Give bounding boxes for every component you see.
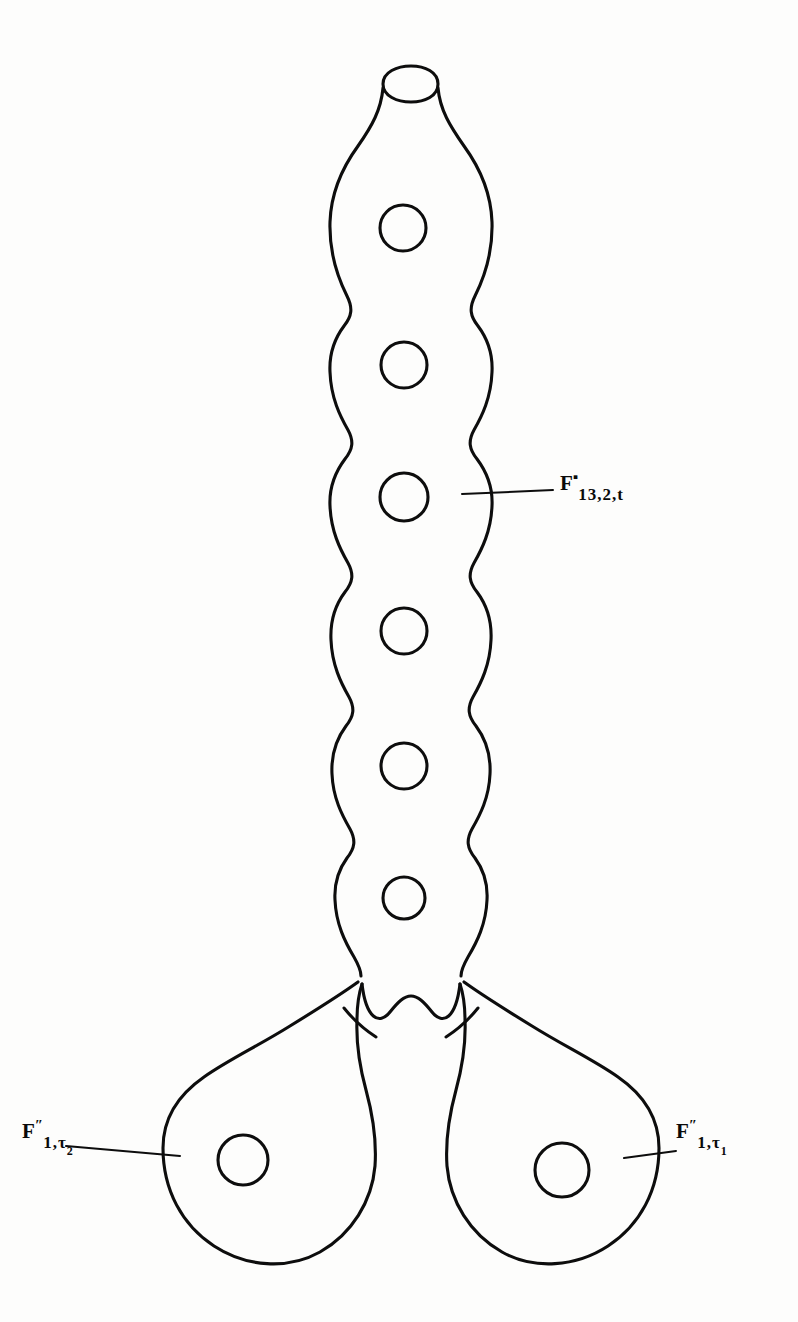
figure-canvas: F▪13,2,t F″1,τ2 F″1,τ1: [0, 0, 798, 1322]
crotch-arc: [362, 984, 460, 1019]
right-lobe-label-subscript-index: 1: [721, 1144, 728, 1158]
surface-right-boundary: [438, 88, 492, 976]
upper-tube-label-superscript: ▪: [573, 469, 578, 485]
left-lobe-label: F″1,τ2: [22, 1120, 74, 1149]
left-lobe-hole: [218, 1135, 268, 1185]
left-lobe-label-subscript-main: 1,τ: [43, 1133, 67, 1152]
left-lobe-label-subscript: 1,τ2: [43, 1133, 74, 1152]
right-lobe-label: F″1,τ1: [676, 1120, 728, 1149]
right-lobe-hole: [535, 1143, 589, 1197]
left-lobe-label-superscript: ″: [35, 1117, 43, 1133]
right-lobe-label-subscript-main: 1,τ: [697, 1133, 721, 1152]
tube-hole-1: [380, 205, 426, 251]
upper-tube-label: F▪13,2,t: [560, 472, 624, 498]
upper-tube-label-subscript: 13,2,t: [578, 485, 624, 504]
right-lobe-leader-line: [624, 1151, 676, 1158]
upper-tube-label-base: F: [560, 471, 573, 495]
surface-left-boundary: [330, 88, 383, 976]
right-lobe-boundary: [447, 982, 659, 1264]
right-lobe-label-superscript: ″: [689, 1117, 697, 1133]
right-lobe-label-base: F: [676, 1119, 689, 1143]
tube-hole-6: [383, 877, 425, 919]
tube-opening-rim: [383, 66, 438, 102]
tube-leader-line: [462, 490, 553, 494]
left-lobe-boundary: [163, 982, 375, 1264]
right-lobe-label-subscript: 1,τ1: [697, 1133, 728, 1152]
left-lobe-label-subscript-index: 2: [67, 1144, 74, 1158]
tube-hole-3: [380, 473, 428, 521]
tube-hole-2: [381, 342, 427, 388]
tube-hole-5: [381, 743, 427, 789]
tube-hole-4: [381, 608, 427, 654]
left-lobe-label-base: F: [22, 1119, 35, 1143]
